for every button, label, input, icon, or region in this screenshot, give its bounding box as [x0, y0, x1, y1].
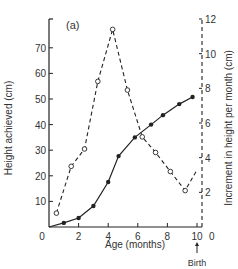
x-tick-label: 8: [165, 231, 171, 242]
increment-point: [82, 147, 87, 152]
y-tick-label: 50: [35, 94, 47, 105]
height-point: [116, 154, 120, 158]
axes: 102030405060700246810246810120: [35, 14, 217, 253]
y2-tick-label: 10: [205, 49, 217, 60]
height-point: [91, 204, 95, 208]
increment-point: [153, 150, 158, 155]
y2-tick-label: 8: [205, 83, 211, 94]
y-axis-label: Height achieved (cm): [3, 81, 14, 175]
y-tick-label: 40: [35, 120, 47, 131]
increment-line: [56, 29, 197, 213]
birth-arrow-icon: [195, 242, 199, 246]
y-origin-label: 0: [39, 231, 45, 242]
y2-tick-label: 12: [205, 14, 217, 25]
height-point: [161, 113, 165, 117]
x-axis-label: Age (months): [105, 239, 165, 250]
chart-canvas: 102030405060700246810246810120 (a) Age (…: [0, 0, 238, 269]
increment-point: [69, 164, 74, 169]
increment-point: [96, 79, 101, 84]
y-tick-label: 20: [35, 171, 47, 182]
y-tick-label: 30: [35, 145, 47, 156]
increment-point: [110, 27, 115, 32]
x-tick-label: 2: [76, 231, 82, 242]
y2-tick-label: 2: [205, 187, 211, 198]
height-point: [62, 221, 66, 225]
y-tick-label: 70: [35, 43, 47, 54]
y2-tick-label: 4: [205, 153, 211, 164]
panel-label: (a): [66, 19, 79, 31]
height-point: [149, 122, 153, 126]
y2-tick-label: 6: [205, 118, 211, 129]
series-layer: [49, 27, 197, 227]
y-tick-label: 60: [35, 68, 47, 79]
height-point: [177, 102, 181, 106]
increment-point: [54, 211, 59, 216]
y2-origin-label: 0: [209, 231, 215, 242]
height-point: [190, 95, 194, 99]
increment-point: [125, 88, 130, 93]
increment-point: [183, 188, 188, 193]
increment-point: [168, 169, 173, 174]
height-point: [133, 135, 137, 139]
y2-axis-label: Increment in height per month (cm): [223, 50, 234, 206]
growth-chart: 102030405060700246810246810120 (a) Age (…: [0, 0, 238, 269]
height-point: [76, 216, 80, 220]
increment-point: [140, 135, 145, 140]
birth-annotation: Birth: [188, 258, 207, 268]
x-tick-label: 10: [191, 231, 203, 242]
height-point: [106, 180, 110, 184]
height-line: [49, 97, 193, 227]
y-tick-label: 10: [35, 196, 47, 207]
